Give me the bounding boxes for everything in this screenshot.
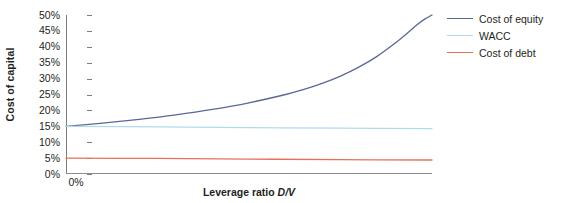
y-axis-tick-label: 0% [26, 169, 60, 180]
series-lines [66, 15, 432, 174]
y-axis-tick-label: 30% [26, 73, 60, 84]
legend-item-label: WACC [479, 30, 511, 42]
y-axis-tick-label: 50% [26, 10, 60, 21]
y-axis-tick-label: 20% [26, 105, 60, 116]
legend-swatch-icon [447, 18, 473, 19]
x-axis-title: Leverage ratio D/V [66, 186, 432, 198]
legend-item[interactable]: Cost of equity [447, 10, 569, 27]
y-axis-tick-label: 25% [26, 89, 60, 100]
plot-area [66, 15, 432, 174]
cost-of-capital-chart: Cost of capital 50%45%40%35%30%25%20%15%… [0, 0, 569, 203]
legend-item-label: Cost of equity [479, 13, 543, 25]
y-axis-tick-label: 10% [26, 137, 60, 148]
y-axis-tick-label: 15% [26, 121, 60, 132]
y-axis-tick-label: 5% [26, 153, 60, 164]
y-axis-tick-label: 35% [26, 57, 60, 68]
x-axis-title-symbol: D/V [278, 186, 296, 198]
legend-swatch-icon [447, 35, 473, 36]
x-axis-title-prefix: Leverage ratio [203, 186, 278, 198]
y-axis-tick-label: 40% [26, 41, 60, 52]
y-axis-tick-label: 45% [26, 25, 60, 36]
legend-item[interactable]: WACC [447, 27, 569, 44]
series-line-cost-of-equity [66, 15, 432, 126]
y-axis-title: Cost of capital [2, 0, 18, 186]
series-line-wacc [66, 126, 432, 128]
legend-swatch-icon [447, 52, 473, 53]
legend-item[interactable]: Cost of debt [447, 44, 569, 61]
y-axis-tick-labels: 50%45%40%35%30%25%20%15%10%5%0% [26, 9, 60, 181]
legend: Cost of equityWACCCost of debt [447, 10, 569, 61]
legend-item-label: Cost of debt [479, 47, 536, 59]
series-line-cost-of-debt [66, 158, 432, 160]
